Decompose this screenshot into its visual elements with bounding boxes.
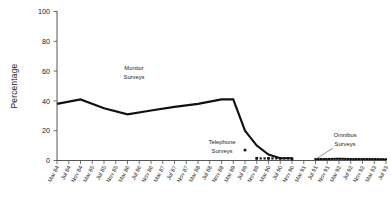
y-tick-label: 0 — [46, 156, 50, 165]
annotation-omnibus-surveys: Omnibus Surveys — [316, 132, 357, 159]
data-point-marker — [371, 158, 373, 160]
data-point-marker — [377, 158, 379, 160]
x-tick-label: Jul 93 — [377, 165, 389, 181]
data-point-marker — [352, 158, 354, 160]
data-point-marker — [328, 158, 330, 160]
data-point-marker — [363, 158, 365, 160]
y-tick-label: 100 — [38, 7, 50, 16]
data-point-marker — [336, 158, 338, 160]
y-axis-title: Percentage — [9, 63, 19, 108]
annotation-omnibus-line2: Surveys — [335, 141, 356, 147]
x-tick-label: Mar 87 — [152, 165, 165, 183]
x-tick-label: Mar 89 — [223, 165, 236, 183]
data-point-marker — [350, 158, 352, 160]
data-point-marker — [320, 158, 322, 160]
annotation-telephone-line1: Telephone — [209, 139, 236, 145]
data-point-marker — [385, 158, 387, 160]
data-point-marker — [267, 157, 269, 159]
data-point-marker — [323, 158, 325, 160]
data-point-marker — [244, 149, 247, 152]
annotation-monitor-line2: Surveys — [124, 74, 145, 80]
x-tick-label: Mar 88 — [188, 165, 201, 183]
x-tick-label: Mar 92 — [329, 165, 342, 183]
x-tick-label: Mar 86 — [117, 165, 130, 183]
data-point-marker — [339, 158, 341, 160]
data-point-marker — [366, 158, 368, 160]
omnibus-leader-line — [316, 148, 333, 159]
x-tick-label: Mar 84 — [47, 165, 60, 183]
x-tick-label: Mar 90 — [258, 165, 271, 183]
data-point-marker — [291, 157, 293, 159]
data-point-marker — [333, 158, 335, 160]
data-point-marker — [344, 158, 346, 160]
data-point-marker — [325, 158, 327, 160]
data-point-marker — [361, 158, 363, 160]
data-point-marker — [374, 158, 376, 160]
line-chart: Percentage 100 80 60 40 20 0 Mar 84Jul 8… — [0, 0, 391, 201]
data-point-marker — [260, 157, 262, 159]
annotation-monitor-surveys: Monitor Surveys — [124, 65, 145, 80]
data-point-marker — [275, 157, 277, 159]
series-omnibus-surveys — [314, 158, 387, 161]
annotation-telephone-line2: Surveys — [212, 148, 233, 154]
series-monitor-surveys — [57, 99, 292, 158]
y-tick-label: 80 — [42, 37, 50, 46]
data-point-marker — [283, 157, 285, 159]
x-tick-label: Mar 91 — [293, 165, 306, 183]
y-tick-label: 60 — [42, 67, 50, 76]
data-point-marker — [331, 158, 333, 160]
data-point-marker — [342, 158, 344, 160]
x-axis-ticks: Mar 84Jul 84Nov 84Mar 85Jul 85Nov 85Mar … — [47, 161, 389, 184]
y-tick-label: 40 — [42, 97, 50, 106]
data-point-marker — [369, 158, 371, 160]
y-tick-label: 20 — [42, 126, 50, 135]
data-point-marker — [380, 158, 382, 160]
data-point-marker — [287, 157, 289, 159]
data-point-marker — [271, 157, 273, 159]
y-axis-ticks: 100 80 60 40 20 0 — [38, 7, 57, 165]
chart-container: Percentage 100 80 60 40 20 0 Mar 84Jul 8… — [0, 0, 391, 201]
data-point-marker — [263, 157, 265, 159]
data-point-marker — [256, 157, 258, 159]
data-point-marker — [347, 158, 349, 160]
annotation-omnibus-line1: Omnibus — [333, 132, 356, 138]
data-point-marker — [355, 158, 357, 160]
x-tick-label: Mar 93 — [364, 165, 377, 183]
data-point-marker — [279, 157, 281, 159]
annotation-telephone-surveys: Telephone Surveys — [209, 139, 236, 154]
x-tick-label: Mar 85 — [82, 165, 95, 183]
data-point-marker — [382, 158, 384, 160]
data-point-marker — [358, 158, 360, 160]
annotation-monitor-line1: Monitor — [124, 65, 143, 71]
